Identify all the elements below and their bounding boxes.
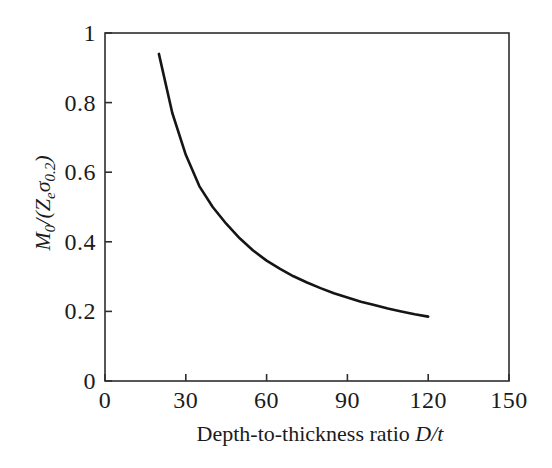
xlabel-text: Depth-to-thickness ratio <box>197 421 416 446</box>
ylabel-slash-paren: /( <box>30 211 55 224</box>
x-tick-label: 30 <box>160 386 212 414</box>
x-axis-title: Depth-to-thickness ratio D/t <box>197 420 444 448</box>
y-tick-label: 0.8 <box>48 89 96 117</box>
ylabel-sub-e: e <box>42 192 58 199</box>
x-tick-label: 150 <box>483 386 535 414</box>
data-curve <box>159 54 428 317</box>
y-tick-label: 0.6 <box>48 158 96 186</box>
xlabel-variable: D/t <box>415 421 443 446</box>
y-tick-label: 0 <box>48 367 96 395</box>
x-tick-label: 90 <box>321 386 373 414</box>
x-tick-label: 120 <box>402 386 454 414</box>
x-tick-label: 60 <box>241 386 293 414</box>
y-tick-label: 0.2 <box>48 297 96 325</box>
figure: M0/(Zeσ0.2) Depth-to-thickness ratio D/t… <box>0 0 552 468</box>
y-tick-label: 0.4 <box>48 228 96 256</box>
ylabel-z: Z <box>30 199 55 211</box>
y-tick-label: 1 <box>48 19 96 47</box>
